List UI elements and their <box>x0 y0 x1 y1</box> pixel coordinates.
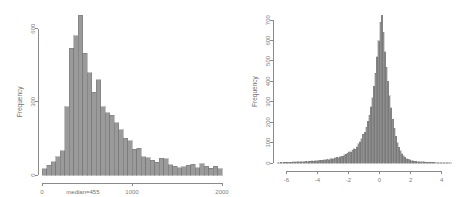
histogram-bar <box>83 53 88 175</box>
left-histogram-panel: 0300600010002000Frequencymedian=455 <box>0 0 229 197</box>
histogram-bar <box>168 165 173 175</box>
histogram-bar <box>191 164 196 175</box>
y-axis-tick-label: 600 <box>30 23 36 34</box>
histogram-bar <box>414 161 416 163</box>
y-axis-title: Frequency <box>251 75 259 106</box>
histogram-bar <box>317 161 319 163</box>
histogram-bar <box>321 160 323 163</box>
histogram-bar <box>313 161 315 163</box>
right-histogram-panel: 0100200300400500600700-6-4-2024Frequency <box>229 0 459 197</box>
histogram-bar <box>408 159 410 163</box>
histogram-bar <box>291 162 293 163</box>
histogram-bar <box>333 159 335 163</box>
histogram-bar <box>300 162 302 163</box>
x-axis-tick-label: 2 <box>409 177 413 183</box>
histogram-bar <box>186 165 191 175</box>
histogram-bar <box>428 162 430 163</box>
histogram-bar <box>293 162 295 163</box>
histogram-bar <box>286 162 288 163</box>
histogram-bar <box>280 162 282 163</box>
histogram-bar <box>421 162 423 163</box>
histogram-bar <box>412 161 414 163</box>
histogram-bar <box>114 123 119 175</box>
histogram-bar <box>347 153 349 163</box>
histogram-bar <box>348 152 350 163</box>
x-axis-tick-label: -2 <box>346 177 352 183</box>
histogram-bar <box>372 98 374 163</box>
histogram-bar <box>87 73 92 175</box>
histogram-bar <box>325 160 327 163</box>
x-axis-tick-label: 2000 <box>215 189 229 195</box>
left-histogram-svg: 0300600010002000Frequencymedian=455 <box>0 0 229 197</box>
histogram-bar <box>204 166 209 175</box>
histogram-bar <box>296 162 298 163</box>
histogram-bar <box>364 132 366 163</box>
histogram-bar <box>362 134 364 163</box>
histogram-bar <box>429 162 431 163</box>
y-axis-tick-label: 300 <box>265 96 271 107</box>
figure-canvas: 0300600010002000Frequencymedian=455 0100… <box>0 0 459 197</box>
histogram-bar <box>359 142 361 163</box>
histogram-bar <box>137 148 142 175</box>
histogram-bar <box>289 162 291 163</box>
left-histogram-bars <box>42 15 222 175</box>
x-axis-tick-label: 0 <box>378 177 382 183</box>
histogram-bar <box>322 160 324 163</box>
histogram-bar <box>177 168 182 175</box>
histogram-bar <box>432 162 434 163</box>
histogram-bar <box>390 108 392 163</box>
histogram-bar <box>307 162 309 163</box>
histogram-bar <box>305 161 307 163</box>
x-axis-tick-label: -4 <box>315 177 321 183</box>
histogram-bar <box>397 143 399 163</box>
histogram-bar <box>132 149 137 175</box>
histogram-bar <box>369 115 371 163</box>
histogram-bar <box>299 162 301 163</box>
histogram-bar <box>376 57 378 163</box>
histogram-bar <box>344 155 346 163</box>
histogram-bar <box>78 15 83 175</box>
histogram-bar <box>128 141 133 175</box>
histogram-bar <box>65 107 70 175</box>
histogram-bar <box>51 162 56 175</box>
histogram-bar <box>47 165 52 175</box>
histogram-bar <box>373 86 375 163</box>
histogram-bar <box>338 158 340 163</box>
histogram-bar <box>110 115 115 175</box>
histogram-bar <box>366 127 368 163</box>
histogram-bar <box>345 154 347 163</box>
histogram-bar <box>182 167 187 175</box>
histogram-bar <box>60 151 65 175</box>
histogram-bar <box>411 161 413 163</box>
histogram-bar <box>361 139 363 163</box>
histogram-bar <box>384 52 386 163</box>
histogram-bar <box>401 154 403 163</box>
right-histogram-svg: 0100200300400500600700-6-4-2024Frequency <box>229 0 459 197</box>
histogram-bar <box>164 159 169 175</box>
histogram-bar <box>336 157 338 163</box>
histogram-bar <box>389 96 391 163</box>
histogram-bar <box>387 81 389 163</box>
histogram-bar <box>358 144 360 163</box>
histogram-bar <box>409 160 411 163</box>
histogram-bar <box>316 161 318 163</box>
histogram-bar <box>294 162 296 163</box>
histogram-bar <box>105 113 110 175</box>
histogram-bar <box>381 15 383 163</box>
histogram-bar <box>283 162 285 163</box>
histogram-bar <box>395 136 397 163</box>
histogram-bar <box>370 107 372 163</box>
right-histogram-bars <box>277 15 451 163</box>
histogram-bar <box>406 159 408 163</box>
histogram-bar <box>218 169 223 175</box>
histogram-bar <box>398 147 400 163</box>
histogram-bar <box>353 149 355 163</box>
y-axis-tick-label: 100 <box>265 137 271 148</box>
histogram-bar <box>150 160 155 175</box>
histogram-bar <box>334 158 336 163</box>
histogram-bar <box>195 168 200 175</box>
y-axis-tick-label: 500 <box>265 55 271 66</box>
histogram-bar <box>314 161 316 163</box>
histogram-bar <box>155 162 160 175</box>
histogram-bar <box>146 158 151 175</box>
